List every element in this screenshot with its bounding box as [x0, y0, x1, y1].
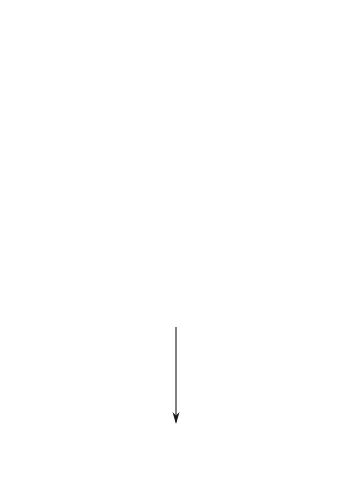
silicate-sheet-figure [0, 0, 351, 490]
